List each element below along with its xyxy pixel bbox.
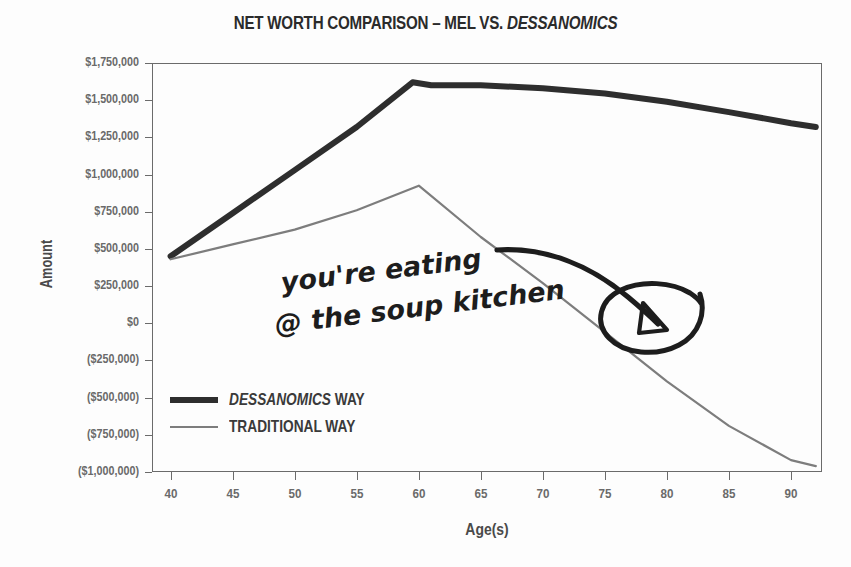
legend-item-dessanomics[interactable]: DESSANOMICS WAY xyxy=(170,386,393,413)
x-tick-label: 40 xyxy=(164,486,177,501)
y-tick-mark xyxy=(145,212,152,213)
x-tick-label: 75 xyxy=(598,486,611,501)
chart-page: NET WORTH COMPARISON – MEL VS. DESSANOMI… xyxy=(0,0,851,567)
y-tick-mark xyxy=(145,100,152,101)
x-tick-mark xyxy=(605,472,606,480)
y-tick-mark xyxy=(145,472,152,473)
y-tick-mark xyxy=(145,360,152,361)
legend-label-dessanomics-plain: WAY xyxy=(331,390,365,408)
y-tick-mark xyxy=(145,398,152,399)
y-tick-label: $0 xyxy=(19,315,139,329)
legend-item-traditional[interactable]: TRADITIONAL WAY xyxy=(170,413,393,440)
handwritten-note: you're eating @ the soup kitchen! xyxy=(276,252,566,352)
legend-swatch-thin-icon xyxy=(170,426,218,428)
y-tick-mark xyxy=(145,137,152,138)
y-tick-label: $1,250,000 xyxy=(19,129,139,143)
y-tick-label: ($250,000) xyxy=(19,352,139,366)
legend-label-dessanomics-italic: DESSANOMICS xyxy=(229,390,331,408)
legend: DESSANOMICS WAY TRADITIONAL WAY xyxy=(170,386,393,440)
x-tick-mark xyxy=(791,472,792,480)
y-tick-label: ($500,000) xyxy=(19,390,139,404)
x-tick-label: 50 xyxy=(288,486,301,501)
x-tick-mark xyxy=(233,472,234,480)
x-tick-label: 80 xyxy=(660,486,673,501)
x-tick-mark xyxy=(543,472,544,480)
y-tick-label: $1,500,000 xyxy=(19,92,139,106)
page-title: NET WORTH COMPARISON – MEL VS. DESSANOMI… xyxy=(77,12,775,34)
y-axis-title: Amount xyxy=(38,220,56,308)
x-tick-label: 45 xyxy=(226,486,239,501)
x-tick-mark xyxy=(295,472,296,480)
x-tick-label: 85 xyxy=(722,486,735,501)
x-tick-label: 55 xyxy=(350,486,363,501)
x-tick-mark xyxy=(419,472,420,480)
legend-label-traditional: TRADITIONAL WAY xyxy=(229,417,355,436)
x-tick-mark xyxy=(171,472,172,480)
x-tick-label: 90 xyxy=(785,486,798,501)
x-tick-mark xyxy=(357,472,358,480)
legend-label-dessanomics: DESSANOMICS WAY xyxy=(229,390,365,409)
x-tick-mark xyxy=(729,472,730,480)
x-tick-label: 65 xyxy=(474,486,487,501)
chart-title-plain: NET WORTH COMPARISON – MEL VS. xyxy=(234,12,507,33)
legend-swatch-thick-icon xyxy=(170,397,218,403)
y-tick-mark xyxy=(145,249,152,250)
x-tick-mark xyxy=(667,472,668,480)
y-tick-mark xyxy=(145,175,152,176)
y-tick-mark xyxy=(145,63,152,64)
y-tick-mark xyxy=(145,323,152,324)
y-tick-label: ($1,000,000) xyxy=(19,464,139,478)
x-tick-mark xyxy=(481,472,482,480)
y-tick-mark xyxy=(145,286,152,287)
y-tick-label: $1,750,000 xyxy=(19,55,139,69)
y-tick-label: $750,000 xyxy=(19,204,139,218)
y-tick-label: $1,000,000 xyxy=(19,167,139,181)
x-tick-label: 70 xyxy=(536,486,549,501)
x-tick-label: 60 xyxy=(412,486,425,501)
y-tick-label: $500,000 xyxy=(19,241,139,255)
y-tick-label: ($750,000) xyxy=(19,427,139,441)
y-tick-mark xyxy=(145,435,152,436)
chart-title-italic: DESSANOMICS xyxy=(507,12,617,33)
y-tick-label: $250,000 xyxy=(19,278,139,292)
x-axis-title: Age(s) xyxy=(212,520,761,540)
